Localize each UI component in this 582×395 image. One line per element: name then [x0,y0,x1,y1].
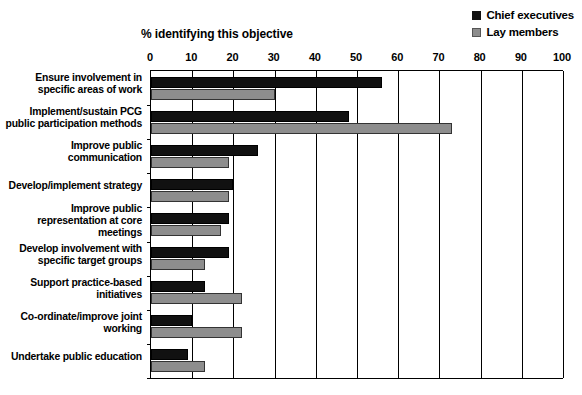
x-tick-label: 100 [553,51,571,63]
y-axis-category-label: Develop involvement with specific target… [0,243,142,267]
x-tick-label: 10 [185,51,197,63]
gridline [563,71,564,378]
bar [151,327,242,338]
bar [151,157,229,168]
legend-entry-lay-members: Lay members [472,25,574,40]
bar-group [151,105,563,139]
bar-group [151,71,563,105]
bar [151,179,233,190]
x-tick-label: 90 [515,51,527,63]
bar [151,123,452,134]
legend-label: Lay members [486,26,558,39]
bar-group [151,207,563,241]
x-tick-label: 80 [474,51,486,63]
bar [151,281,205,292]
chart-legend: Chief executives Lay members [472,8,574,42]
y-axis-category-label: Develop/implement strategy [0,180,142,192]
x-tick-label: 20 [226,51,238,63]
bar [151,315,192,326]
bar [151,349,188,360]
x-tick-label: 50 [350,51,362,63]
bar-chart: Chief executives Lay members % identifyi… [0,0,582,395]
x-tick-label: 0 [147,51,153,63]
bar [151,145,258,156]
bar-group [151,276,563,310]
y-axis-category-label: Undertake public education [0,351,142,363]
plot-area [150,70,563,379]
x-axis-title: % identifying this objective [141,27,293,41]
bar [151,361,205,372]
y-axis-category-label: Co-ordinate/improve joint working [0,311,142,335]
bar [151,191,229,202]
y-axis-category-label: Implement/sustain PCG public participati… [0,106,142,130]
x-tick-label: 30 [268,51,280,63]
bar-rows [151,71,563,378]
bar-group [151,139,563,173]
y-axis-category-label: Ensure involvement in specific areas of … [0,72,142,96]
x-axis-tick-labels: 0102030405060708090100 [0,51,582,65]
bar [151,89,275,100]
bar-group [151,344,563,378]
bar [151,259,205,270]
bar [151,77,382,88]
legend-entry-chief-executives: Chief executives [472,8,574,23]
filled-square-icon [472,11,481,20]
y-axis-category-label: Support practice-based initiatives [0,277,142,301]
bar [151,213,229,224]
bar-group [151,310,563,344]
bar [151,111,349,122]
bar-group [151,173,563,207]
x-tick-label: 70 [432,51,444,63]
y-axis-category-label: Improve public representation at core me… [0,203,142,239]
y-axis-category-labels: Ensure involvement in specific areas of … [0,70,146,377]
y-axis-category-label: Improve public communication [0,140,142,164]
filled-square-icon [472,28,481,37]
bar [151,247,229,258]
bar [151,225,221,236]
bar-group [151,242,563,276]
bar [151,293,242,304]
legend-label: Chief executives [486,9,574,22]
x-tick-label: 60 [391,51,403,63]
x-tick-label: 40 [309,51,321,63]
y-tick [147,378,151,379]
